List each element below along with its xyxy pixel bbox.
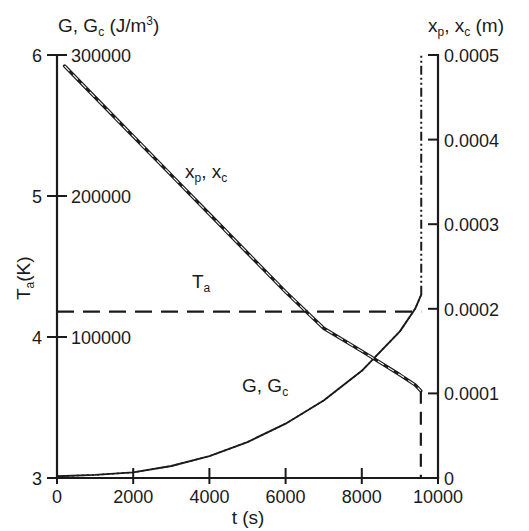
x-axis-ticks xyxy=(57,468,438,484)
svg-text:5: 5 xyxy=(32,187,42,207)
left-inner-axis-title: Ta(K) xyxy=(13,256,37,300)
svg-text:3: 3 xyxy=(32,469,42,489)
svg-text:0: 0 xyxy=(444,469,454,489)
svg-text:10000: 10000 xyxy=(413,487,463,507)
svg-text:0.0003: 0.0003 xyxy=(444,215,499,235)
left-axis-title: G, Gc (J/m3) xyxy=(58,14,159,39)
svg-text:Ta(K): Ta(K) xyxy=(13,256,37,300)
svg-text:300000: 300000 xyxy=(71,46,131,66)
right-axis-ticks xyxy=(428,55,438,478)
figure-container: G, Gc (J/m3) xp, xc (m) Ta(K) t (s) xyxy=(0,0,529,531)
right-axis-ticklabels: 0 0.0001 0.0002 0.0003 0.0004 0.0005 xyxy=(444,46,499,489)
series-group xyxy=(57,55,421,478)
svg-text:t (s): t (s) xyxy=(232,507,265,528)
series-g-line xyxy=(57,295,421,477)
svg-text:G, Gc (J/m3): G, Gc (J/m3) xyxy=(58,14,159,39)
svg-text:0.0004: 0.0004 xyxy=(444,131,499,151)
x-axis-title: t (s) xyxy=(232,507,265,528)
series-gc-overlay xyxy=(57,295,421,477)
svg-text:100000: 100000 xyxy=(71,328,131,348)
svg-text:0.0002: 0.0002 xyxy=(444,300,499,320)
svg-text:0.0005: 0.0005 xyxy=(444,46,499,66)
svg-text:2000: 2000 xyxy=(113,487,153,507)
svg-text:8000: 8000 xyxy=(342,487,382,507)
svg-text:6: 6 xyxy=(32,46,42,66)
svg-text:G, Gc: G, Gc xyxy=(242,375,288,399)
svg-text:0: 0 xyxy=(52,487,62,507)
left-outer-ticklabels: 100000 200000 300000 xyxy=(71,46,131,348)
x-axis-ticklabels: 0 2000 4000 6000 8000 10000 xyxy=(52,487,463,507)
svg-text:0.0001: 0.0001 xyxy=(444,384,499,404)
svg-text:6000: 6000 xyxy=(266,487,306,507)
svg-text:Ta: Ta xyxy=(192,271,211,295)
svg-text:xp, xc: xp, xc xyxy=(185,161,227,185)
chart-svg: G, Gc (J/m3) xp, xc (m) Ta(K) t (s) xyxy=(0,0,529,531)
right-axis-title: xp, xc (m) xyxy=(428,15,504,39)
svg-text:4: 4 xyxy=(32,328,42,348)
svg-text:4000: 4000 xyxy=(189,487,229,507)
svg-text:200000: 200000 xyxy=(71,187,131,207)
annotation-xp-xc: xp, xc xyxy=(185,161,227,185)
annotation-g-gc: G, Gc xyxy=(242,375,288,399)
svg-text:xp, xc (m): xp, xc (m) xyxy=(428,15,504,39)
annotation-ta: Ta xyxy=(192,271,211,295)
